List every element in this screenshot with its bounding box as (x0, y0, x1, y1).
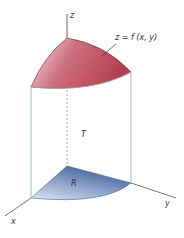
y-axis-line (131, 183, 176, 198)
surface-f (31, 38, 131, 88)
x-axis-line (5, 198, 31, 216)
region-r (31, 166, 131, 200)
z-axis-label: z (70, 12, 74, 20)
x-axis-label: x (11, 218, 16, 226)
surface-label: z = f (x, y) (115, 34, 157, 42)
y-axis-label: y (165, 200, 170, 208)
region-label: R (71, 180, 77, 188)
solid-label: T (81, 131, 86, 139)
